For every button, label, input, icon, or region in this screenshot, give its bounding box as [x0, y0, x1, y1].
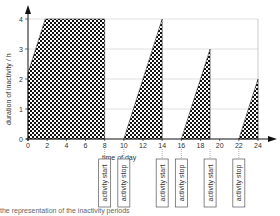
- svg-text:0: 0: [19, 136, 23, 143]
- x-axis-ticks: 024681012141618202224: [26, 139, 262, 149]
- svg-text:1: 1: [19, 106, 23, 113]
- svg-text:2: 2: [19, 76, 23, 83]
- svg-text:24: 24: [254, 142, 262, 149]
- svg-text:3: 3: [19, 46, 23, 53]
- svg-text:8: 8: [103, 142, 107, 149]
- inactivity-area-3: [181, 49, 210, 139]
- svg-text:22: 22: [235, 142, 243, 149]
- annotation-3: activity start: [159, 164, 167, 201]
- y-axis-label: duration of inactivity / h: [5, 53, 13, 125]
- svg-text:6: 6: [84, 142, 88, 149]
- svg-text:14: 14: [158, 142, 166, 149]
- annotation-5: activity start: [207, 164, 215, 201]
- svg-text:20: 20: [216, 142, 224, 149]
- figure-caption: the representation of the inactivity per…: [0, 207, 130, 214]
- svg-text:0: 0: [26, 142, 30, 149]
- annotation-6: activity stop: [235, 165, 243, 202]
- svg-text:4: 4: [64, 142, 68, 149]
- y-axis-ticks: 01234: [19, 16, 28, 143]
- svg-text:18: 18: [197, 142, 205, 149]
- svg-text:2: 2: [45, 142, 49, 149]
- annotation-2: activity stop: [120, 165, 128, 202]
- svg-text:12: 12: [139, 142, 147, 149]
- svg-text:10: 10: [120, 142, 128, 149]
- svg-text:4: 4: [19, 16, 23, 23]
- inactivity-chart: 024681012141618202224 01234 time of day …: [0, 0, 280, 216]
- annotation-4: activity stop: [178, 165, 186, 202]
- svg-text:16: 16: [177, 142, 185, 149]
- inactivity-area-1: [28, 19, 105, 139]
- annotation-1: activity start: [101, 164, 109, 201]
